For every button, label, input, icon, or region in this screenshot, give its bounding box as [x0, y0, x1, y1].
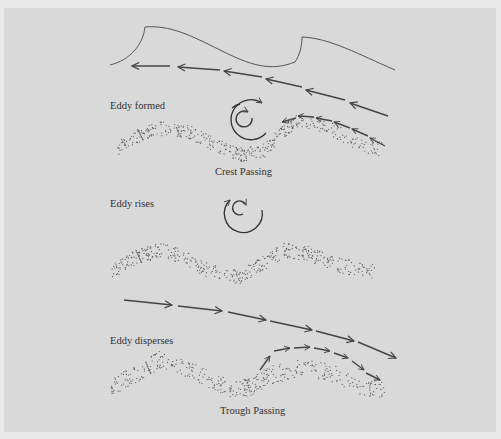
label-trough-passing: Trough Passing [220, 405, 285, 416]
label-eddy-disperses: Eddy disperses [110, 335, 173, 346]
sediment-ripples [111, 115, 385, 398]
wave-eddy-diagram [0, 0, 501, 439]
eddy-rises-icon [224, 200, 262, 233]
crest-flow-arrows [132, 66, 388, 116]
label-eddy-formed: Eddy formed [110, 100, 165, 111]
label-eddy-rises: Eddy rises [110, 198, 154, 209]
trough-flow-arrows [124, 300, 396, 358]
near-bed-arrows [282, 116, 385, 146]
wave-surface [110, 27, 395, 70]
label-crest-passing: Crest Passing [215, 166, 272, 177]
trough-bed-arrows [260, 347, 380, 380]
eddy-formed-icon [231, 100, 266, 140]
